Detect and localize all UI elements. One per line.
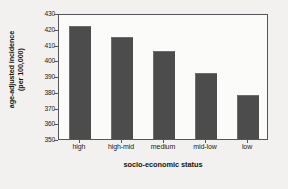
y-axis-tick-label: 400 <box>19 58 55 65</box>
y-axis-tick-label: 370 <box>19 105 55 112</box>
x-axis-tick-label: mid-low <box>193 143 216 150</box>
x-axis-tick-label: high-mid <box>108 143 134 150</box>
x-axis-tick-label: high <box>73 143 86 150</box>
plot-area <box>58 14 268 140</box>
y-axis-tick-label: 390 <box>19 74 55 81</box>
x-axis-tick-mark <box>79 140 80 143</box>
bar-chart-figure: age-adjusted incidence (per 100,000) 350… <box>0 0 288 189</box>
y-axis-tick-mark <box>54 140 58 141</box>
bar <box>153 51 175 139</box>
y-axis-title: age-adjusted incidence (per 100,000) <box>4 0 30 140</box>
y-axis-tick-label: 430 <box>19 11 55 18</box>
y-axis-tick-label: 360 <box>19 121 55 128</box>
x-axis-tick-mark <box>163 140 164 143</box>
y-axis-tick-label: 420 <box>19 26 55 33</box>
x-axis-tick-mark <box>247 140 248 143</box>
x-axis-tick-mark <box>121 140 122 143</box>
x-axis-tick-label: medium <box>151 143 175 150</box>
y-axis-tick-label: 380 <box>19 89 55 96</box>
y-axis-tick-label: 410 <box>19 42 55 49</box>
bar <box>195 73 217 139</box>
bar <box>237 95 259 139</box>
bar <box>69 26 91 139</box>
x-axis-tick-label: low <box>242 143 252 150</box>
y-axis-tick-label: 350 <box>19 137 55 144</box>
y-axis-title-line-1: age-adjusted incidence <box>7 31 16 108</box>
bar-series <box>59 15 267 139</box>
x-axis-tick-mark <box>205 140 206 143</box>
x-axis-title: socio-economic status <box>58 160 268 169</box>
bar <box>111 37 133 139</box>
